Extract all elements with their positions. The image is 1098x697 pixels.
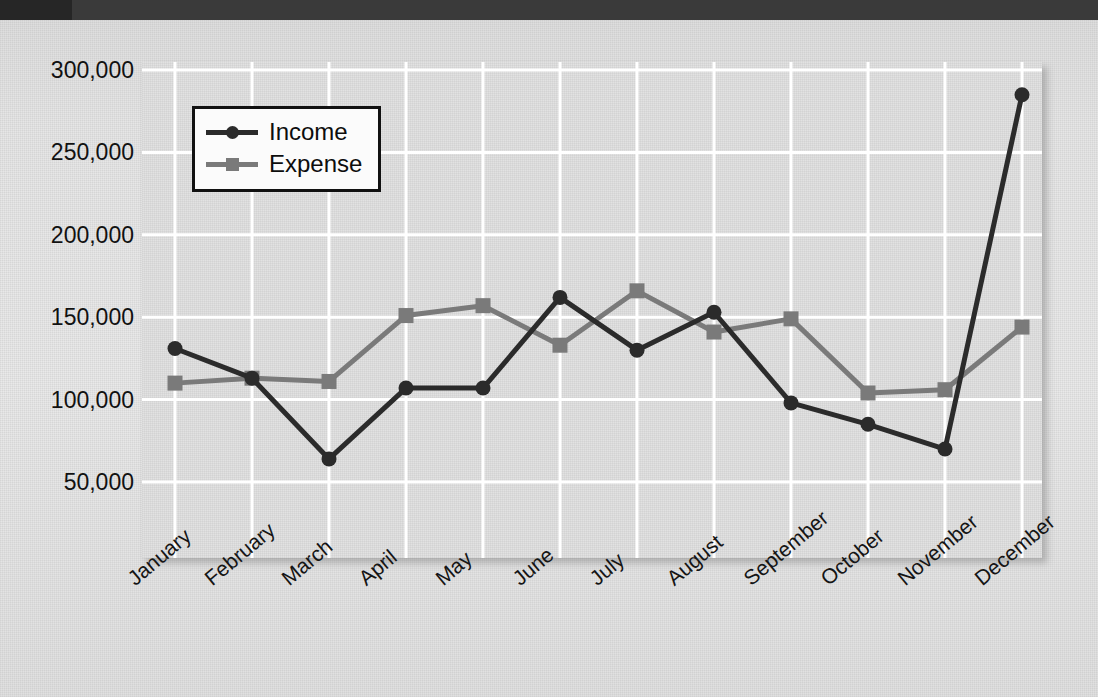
y-axis-tick-label: 150,000 xyxy=(51,304,134,331)
data-point-marker xyxy=(938,382,953,397)
legend-swatch-income xyxy=(206,123,258,141)
data-point-marker xyxy=(553,290,568,305)
y-axis-tick-labels: 50,000100,000150,000200,000250,000300,00… xyxy=(10,0,134,697)
y-axis-tick-label: 100,000 xyxy=(51,386,134,413)
data-point-marker xyxy=(861,417,876,432)
chart-legend[interactable]: Income Expense xyxy=(192,106,381,192)
data-point-marker xyxy=(322,374,337,389)
data-point-marker xyxy=(938,442,953,457)
y-axis-tick-label: 250,000 xyxy=(51,139,134,166)
data-point-marker xyxy=(168,341,183,356)
data-point-marker xyxy=(861,386,876,401)
data-point-marker xyxy=(168,376,183,391)
legend-item-income[interactable]: Income xyxy=(206,116,362,148)
circle-marker-icon xyxy=(226,126,239,139)
y-axis-tick-label: 50,000 xyxy=(64,469,134,496)
data-point-marker xyxy=(784,395,799,410)
square-marker-icon xyxy=(226,158,239,171)
data-point-marker xyxy=(1015,320,1030,335)
data-point-marker xyxy=(630,343,645,358)
legend-swatch-expense xyxy=(206,155,258,173)
data-point-marker xyxy=(784,311,799,326)
data-point-marker xyxy=(630,283,645,298)
slide-root: 50,000100,000150,000200,000250,000300,00… xyxy=(0,0,1098,697)
data-point-marker xyxy=(707,305,722,320)
data-point-marker xyxy=(1015,87,1030,102)
data-point-marker xyxy=(322,451,337,466)
data-point-marker xyxy=(399,381,414,396)
data-point-marker xyxy=(553,338,568,353)
data-point-marker xyxy=(245,371,260,386)
data-point-marker xyxy=(707,325,722,340)
data-point-marker xyxy=(476,298,491,313)
slide-top-band xyxy=(0,0,1098,20)
y-axis-tick-label: 300,000 xyxy=(51,57,134,84)
legend-label-income: Income xyxy=(269,120,348,144)
legend-label-expense: Expense xyxy=(269,152,362,176)
y-axis-tick-label: 200,000 xyxy=(51,221,134,248)
legend-item-expense[interactable]: Expense xyxy=(206,148,362,180)
series-line-expense xyxy=(175,291,1022,393)
data-point-marker xyxy=(476,381,491,396)
data-point-marker xyxy=(399,308,414,323)
